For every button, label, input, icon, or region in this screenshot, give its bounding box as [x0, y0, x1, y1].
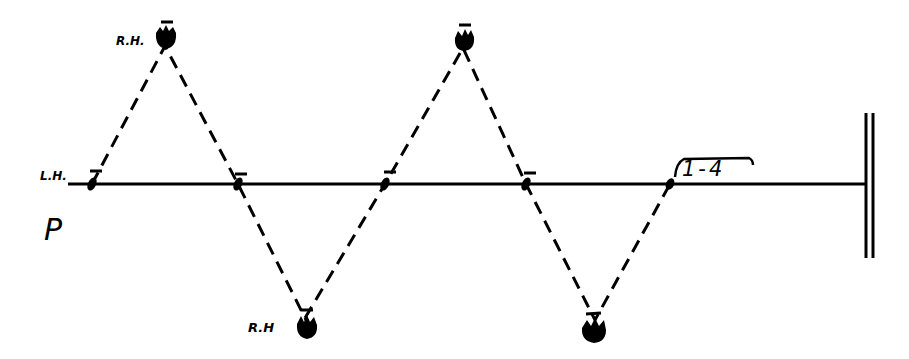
left-hand-points [85, 171, 676, 192]
rh-foot-top-1 [156, 22, 176, 49]
diagram-drawing [0, 0, 909, 359]
lh-point-1 [85, 171, 102, 192]
lh-point-3 [378, 172, 396, 192]
rh-foot-top-2 [455, 25, 474, 51]
left-hand-label: L.H. [40, 169, 67, 183]
right-hand-bottom-label: R.H [248, 320, 274, 335]
pattern-letter-label: P [44, 212, 62, 247]
count-label: 1-4 [682, 157, 725, 181]
right-hand-top-label: R.H. [116, 34, 145, 48]
footwork-diagram: L.H. P R.H. R.H 1-4 [0, 0, 909, 359]
